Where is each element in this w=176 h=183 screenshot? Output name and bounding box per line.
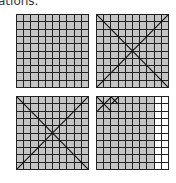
grid-cell <box>39 30 45 36</box>
grid-cell <box>147 148 153 154</box>
grid-cell <box>39 119 45 125</box>
grid-cell <box>31 22 37 28</box>
grid-cell <box>104 141 110 147</box>
grid-cell <box>126 126 132 132</box>
grid-cell <box>111 52 117 58</box>
grid-cell <box>46 104 52 110</box>
grid-cell <box>111 59 117 65</box>
grid-cell <box>67 44 73 50</box>
grid-cell <box>111 15 117 21</box>
grid-cell <box>17 97 23 103</box>
grid-cell <box>126 73 132 79</box>
grid-cell <box>24 37 30 43</box>
grid-cell <box>97 59 103 65</box>
grid-cell <box>60 141 66 147</box>
grid-cell <box>75 15 81 21</box>
grid-cell <box>119 22 125 28</box>
grid-cell <box>82 163 88 169</box>
grid-cell <box>104 44 110 50</box>
grid-cell <box>17 126 23 132</box>
grid-cell <box>31 119 37 125</box>
grid-cell <box>31 81 37 87</box>
grid-cell <box>155 104 161 110</box>
grid-cell <box>75 112 81 118</box>
grid-cell <box>39 104 45 110</box>
grid-cell <box>126 66 132 72</box>
grid-cell <box>53 134 59 140</box>
grid-cell <box>140 141 146 147</box>
grid-cell <box>46 148 52 154</box>
grid-cell <box>46 73 52 79</box>
grid-cell <box>140 97 146 103</box>
grid-cell <box>133 81 139 87</box>
grid-cell <box>119 30 125 36</box>
grid-cell <box>39 112 45 118</box>
grid-cell <box>46 112 52 118</box>
grid-cell <box>53 141 59 147</box>
grid-cell <box>162 22 168 28</box>
grid-cell <box>119 112 125 118</box>
grid-cell <box>162 163 168 169</box>
caption-text: ations. <box>0 0 38 8</box>
grid-cell <box>24 66 30 72</box>
grid-cell <box>39 134 45 140</box>
grid-cell <box>147 134 153 140</box>
grid-cell <box>31 134 37 140</box>
grid-cell <box>67 52 73 58</box>
grid-cell <box>155 97 161 103</box>
grid-cell <box>46 44 52 50</box>
grid-cell <box>140 15 146 21</box>
grid-cell <box>104 134 110 140</box>
grid-cell <box>24 30 30 36</box>
grid-cell <box>53 104 59 110</box>
grid-cell <box>17 163 23 169</box>
grid-cell <box>140 119 146 125</box>
grid-crossed-out <box>96 14 169 88</box>
grid-cell <box>119 155 125 161</box>
grid-cell <box>53 97 59 103</box>
grid-cell <box>119 148 125 154</box>
grid-cell <box>82 52 88 58</box>
grid-cell <box>24 15 30 21</box>
grid-cell <box>155 134 161 140</box>
grid-cell <box>82 97 88 103</box>
grid-cell <box>155 126 161 132</box>
grid-cell <box>75 141 81 147</box>
grid-cell <box>119 73 125 79</box>
grid-cell <box>111 30 117 36</box>
grid-cell <box>67 59 73 65</box>
grid-cell <box>133 73 139 79</box>
grid-cell <box>17 104 23 110</box>
grid-cell <box>126 44 132 50</box>
grid-cell <box>75 119 81 125</box>
grid-cell <box>111 104 117 110</box>
grid-cell <box>140 163 146 169</box>
grid-cell <box>147 22 153 28</box>
grid-cell <box>46 155 52 161</box>
grid-cell <box>133 37 139 43</box>
grid-cell <box>126 15 132 21</box>
grid-cell <box>140 155 146 161</box>
grid-cell <box>155 52 161 58</box>
grid-cell <box>111 66 117 72</box>
grid-cell <box>140 81 146 87</box>
grid-cell <box>17 112 23 118</box>
grid-cell <box>162 66 168 72</box>
grid-cell <box>97 15 103 21</box>
grid-cell <box>75 73 81 79</box>
grid-cell <box>162 52 168 58</box>
grid-cell <box>140 66 146 72</box>
grid-cell <box>39 163 45 169</box>
grid-cell <box>162 37 168 43</box>
grid-cell <box>133 104 139 110</box>
grid-cell <box>119 37 125 43</box>
grid-cell <box>17 119 23 125</box>
grid-cell <box>97 81 103 87</box>
grid-cell <box>53 126 59 132</box>
grid-cell <box>104 52 110 58</box>
grid-cell <box>162 155 168 161</box>
grid-cell <box>24 155 30 161</box>
grid-cell <box>140 44 146 50</box>
grid-cell <box>17 155 23 161</box>
grid-cell <box>126 104 132 110</box>
